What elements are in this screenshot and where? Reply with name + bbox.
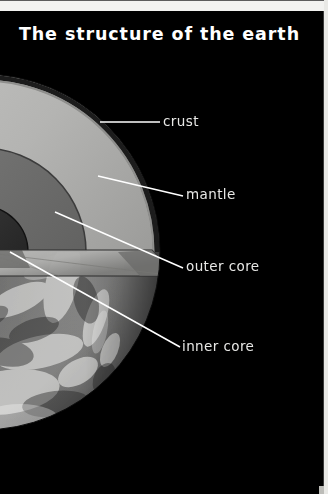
poster-top-border	[0, 1, 328, 11]
label-mantle: mantle	[186, 186, 236, 202]
page-title: The structure of the earth	[0, 24, 312, 44]
poster-bottom-corner	[319, 486, 324, 494]
label-outer-core: outer core	[186, 258, 260, 274]
poster-right-hairline	[323, 11, 324, 494]
earth-cutaway-svg	[0, 0, 328, 494]
cutaway-face	[0, 250, 182, 278]
poster-canvas: The structure of the earth crust mantle …	[0, 0, 328, 494]
label-crust: crust	[163, 113, 199, 129]
label-inner-core: inner core	[182, 338, 254, 354]
earth-diagram	[0, 0, 328, 494]
poster-right-border	[324, 0, 328, 494]
